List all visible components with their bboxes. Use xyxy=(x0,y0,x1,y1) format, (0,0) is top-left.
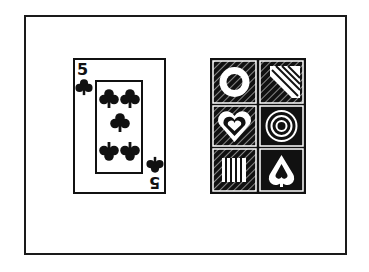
heart-icon xyxy=(213,106,256,146)
stripes-icon xyxy=(260,61,303,103)
spade-heart-icon xyxy=(260,149,303,191)
pattern-card xyxy=(210,58,306,194)
circles-icon xyxy=(260,106,303,146)
rank-bottom: 5 xyxy=(149,174,160,190)
club-icon xyxy=(75,78,93,96)
club-pips xyxy=(97,82,143,174)
ring-icon xyxy=(213,61,256,103)
five-of-clubs-card: 5 5 xyxy=(73,58,166,194)
bars-icon xyxy=(213,149,256,191)
club-icon xyxy=(146,156,164,174)
rank-top: 5 xyxy=(77,62,88,78)
card-face-inner xyxy=(95,80,143,174)
